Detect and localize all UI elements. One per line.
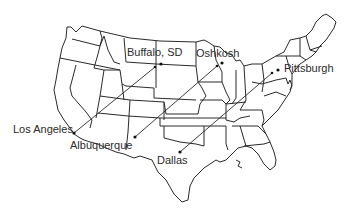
label-los-angeles: Los Angeles	[13, 124, 73, 135]
marker-pittsburgh-end	[271, 72, 274, 75]
marker-albuquerque[interactable]	[133, 135, 136, 138]
label-albuquerque: Albuquerque	[70, 140, 132, 151]
marker-oshkosh[interactable]	[220, 61, 223, 64]
marker-oshkosh-end	[216, 65, 219, 68]
us-outline	[54, 14, 336, 202]
route-la-buffalo	[74, 67, 155, 133]
state-outlines	[54, 14, 336, 202]
chesapeake	[286, 78, 292, 90]
label-dallas: Dallas	[157, 155, 188, 166]
us-map	[0, 0, 346, 209]
marker-buffalo-end	[154, 66, 157, 69]
label-buffalo: Buffalo, SD	[127, 47, 182, 58]
marker-buffalo[interactable]	[159, 62, 162, 65]
marker-pittsburgh[interactable]	[276, 68, 279, 71]
or-id-border	[60, 58, 120, 70]
label-pittsburgh: Pittsburgh	[284, 63, 334, 74]
label-oshkosh: Oshkosh	[196, 48, 239, 59]
